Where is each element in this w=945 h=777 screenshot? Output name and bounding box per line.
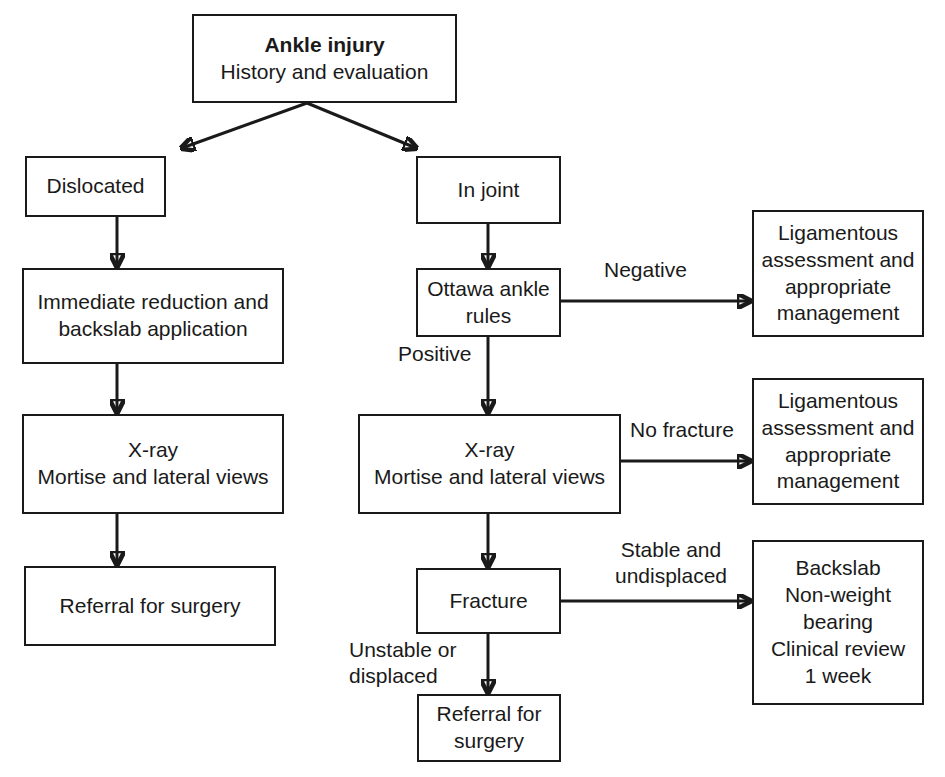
node-referral-middle-line1: Referral for [436, 701, 541, 728]
node-ligamentous-2-line4: management [777, 468, 900, 495]
edge-label-stable-undisplaced: Stable and undisplaced [600, 537, 742, 588]
node-ligamentous-management-1[interactable]: Ligamentous assessment and appropriate m… [752, 210, 924, 337]
node-backslab-plan[interactable]: Backslab Non-weight bearing Clinical rev… [752, 540, 924, 705]
connector-root-to-in-joint [307, 103, 416, 148]
node-in-joint[interactable]: In joint [416, 156, 561, 224]
node-ligamentous-1-line4: management [777, 300, 900, 327]
node-ankle-injury[interactable]: Ankle injury History and evaluation [192, 14, 457, 103]
node-ligamentous-1-line2: assessment and [762, 247, 915, 274]
node-immediate-reduction-line1: Immediate reduction and [37, 289, 268, 316]
node-xray-middle[interactable]: X-ray Mortise and lateral views [358, 414, 621, 514]
node-ottawa-ankle-rules[interactable]: Ottawa ankle rules [416, 268, 561, 337]
node-xray-middle-line1: X-ray [464, 437, 514, 464]
node-referral-middle[interactable]: Referral for surgery [417, 694, 561, 762]
node-ligamentous-2-line1: Ligamentous [778, 388, 898, 415]
node-backslab-line3: bearing [803, 609, 873, 636]
edge-label-unstable-line1: Unstable or [349, 638, 456, 661]
node-ottawa-line2: rules [466, 303, 512, 330]
node-in-joint-label: In joint [458, 177, 520, 204]
connector-root-to-dislocated [182, 103, 307, 148]
edge-label-stable-line1: Stable and [621, 538, 721, 561]
node-backslab-line2: Non-weight [785, 582, 891, 609]
node-referral-left-label: Referral for surgery [60, 593, 241, 620]
node-dislocated-label: Dislocated [46, 173, 144, 200]
node-ligamentous-1-line1: Ligamentous [778, 220, 898, 247]
node-xray-left-line1: X-ray [128, 437, 178, 464]
node-fracture[interactable]: Fracture [416, 568, 561, 634]
node-referral-middle-line2: surgery [454, 728, 524, 755]
edge-label-unstable-line2: displaced [349, 664, 438, 687]
edge-label-positive: Positive [398, 341, 472, 367]
edge-label-stable-line2: undisplaced [615, 564, 727, 587]
node-ligamentous-management-2[interactable]: Ligamentous assessment and appropriate m… [752, 378, 924, 505]
edge-label-no-fracture: No fracture [630, 417, 734, 443]
node-xray-middle-line2: Mortise and lateral views [374, 464, 605, 491]
node-referral-left[interactable]: Referral for surgery [24, 566, 276, 646]
node-ligamentous-2-line3: appropriate [785, 442, 891, 469]
node-dislocated[interactable]: Dislocated [25, 156, 166, 217]
node-ligamentous-1-line3: appropriate [785, 274, 891, 301]
node-xray-left[interactable]: X-ray Mortise and lateral views [22, 414, 284, 514]
flowchart-canvas: Ankle injury History and evaluation Disl… [0, 0, 945, 777]
edge-label-unstable-displaced: Unstable or displaced [349, 637, 456, 688]
node-fracture-label: Fracture [449, 588, 527, 615]
edge-label-negative: Negative [604, 257, 687, 283]
node-backslab-line4: Clinical review [771, 636, 905, 663]
node-immediate-reduction-line2: backslab application [58, 316, 247, 343]
node-backslab-line5: 1 week [805, 663, 872, 690]
node-xray-left-line2: Mortise and lateral views [37, 464, 268, 491]
node-ottawa-line1: Ottawa ankle [427, 276, 550, 303]
node-backslab-line1: Backslab [795, 555, 880, 582]
node-immediate-reduction[interactable]: Immediate reduction and backslab applica… [22, 268, 284, 364]
node-ankle-injury-title: Ankle injury [264, 32, 384, 59]
node-ligamentous-2-line2: assessment and [762, 415, 915, 442]
node-ankle-injury-subtitle: History and evaluation [221, 59, 429, 86]
